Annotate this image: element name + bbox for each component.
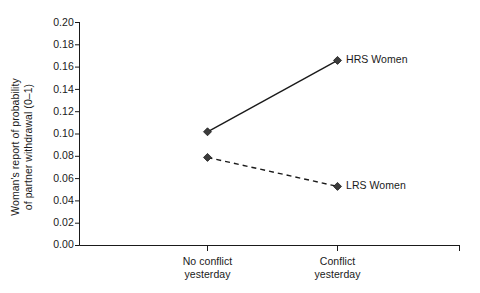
- series-label-lrs-women: LRS Women: [346, 180, 406, 191]
- data-point-marker-hrs-no-conflict: [204, 128, 212, 136]
- x-axis-ticks: [208, 246, 338, 252]
- data-point-marker-lrs-conflict: [334, 182, 342, 190]
- x-tick-label-no-conflict-yesterday: No conflict yesterday: [148, 255, 268, 280]
- chart-figure: Woman's report of probability of partner…: [0, 0, 480, 293]
- x-tick-label-line-2: yesterday: [148, 268, 268, 281]
- series-label-hrs-women: HRS Women: [346, 54, 408, 65]
- series-line-lrs-women: [208, 157, 338, 186]
- plot-area: [0, 0, 480, 293]
- series-line-hrs-women: [208, 60, 338, 131]
- x-tick-label-line-1: No conflict: [148, 255, 268, 268]
- y-axis-ticks: [75, 23, 80, 246]
- x-tick-label-line-1: Conflict: [278, 255, 398, 268]
- data-point-marker-lrs-no-conflict: [204, 153, 212, 161]
- data-point-marker-hrs-conflict: [334, 56, 342, 64]
- x-tick-label-line-2: yesterday: [278, 268, 398, 281]
- x-tick-label-conflict-yesterday: Conflict yesterday: [278, 255, 398, 280]
